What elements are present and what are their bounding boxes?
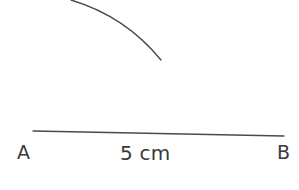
point-label-a: A (17, 143, 30, 162)
line-segment-ab (33, 131, 284, 136)
segment-length-label: 5 cm (120, 143, 170, 163)
geometry-figure: A 5 cm B (0, 0, 299, 190)
compass-arc (71, 0, 161, 60)
point-label-b: B (277, 143, 290, 162)
